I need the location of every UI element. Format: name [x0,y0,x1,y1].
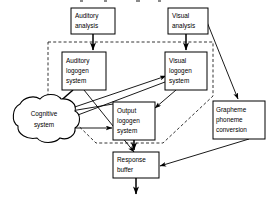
edge-grapheme-phoneme-to-response-buffer [160,139,249,166]
node-auditory-logogen-line2: logogen [66,67,89,75]
node-grapheme-phoneme-line3: conversion [216,126,247,133]
node-visual-analysis-line1: Visual [172,12,189,19]
logogen-model-diagram: Auditory analysis Visual analysis Audito… [0,0,269,199]
node-output-logogen-system[interactable]: Output logogen system [113,102,155,140]
node-grapheme-phoneme-line1: Grapheme [216,106,247,114]
edge-visual-analysis-to-grapheme-phoneme [207,22,238,99]
node-visual-logogen-system[interactable]: Visual logogen system [165,52,207,90]
node-auditory-logogen-line1: Auditory [66,57,90,65]
node-output-logogen-line1: Output [117,107,136,115]
caption-remnant [80,0,161,2]
node-grapheme-phoneme-conversion[interactable]: Grapheme phoneme conversion [213,101,265,139]
node-visual-analysis[interactable]: Visual analysis [168,8,208,34]
edge-visual-logogen-to-output-logogen [155,90,176,108]
node-cognitive-system-line2: system [34,121,54,129]
node-auditory-analysis-line1: Auditory [75,12,99,20]
node-visual-analysis-line2: analysis [172,22,195,30]
node-cognitive-system-line1: Cognitive [31,110,58,118]
node-auditory-logogen-system[interactable]: Auditory logogen system [62,52,106,90]
node-visual-logogen-line2: logogen [169,67,192,75]
node-auditory-logogen-line3: system [66,77,86,85]
node-visual-logogen-line3: system [169,77,189,85]
node-visual-logogen-line1: Visual [169,57,186,64]
node-output-logogen-line2: logogen [117,117,140,125]
node-output-logogen-line3: system [117,127,137,135]
node-response-buffer-line2: buffer [117,166,134,173]
node-grapheme-phoneme-line2: phoneme [216,116,243,124]
cloud-outline [13,95,79,143]
node-auditory-analysis-line2: analysis [75,22,98,30]
node-response-buffer-line1: Response [117,156,146,164]
figure-canvas: Auditory analysis Visual analysis Audito… [0,0,269,199]
node-auditory-analysis[interactable]: Auditory analysis [71,8,115,34]
node-response-buffer[interactable]: Response buffer [113,152,159,178]
node-cognitive-system[interactable]: Cognitive system [13,95,79,143]
